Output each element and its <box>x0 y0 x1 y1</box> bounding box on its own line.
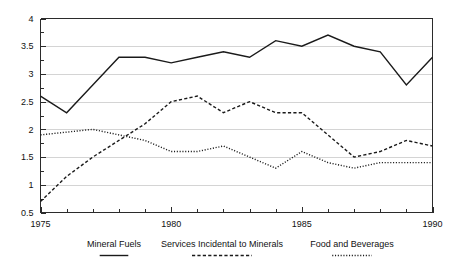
y-tick-labels-group: 0.511.522.533.54 <box>21 14 34 218</box>
x-tick-label: 1985 <box>292 219 312 229</box>
data-series-group <box>41 35 433 201</box>
x-tick-label: 1975 <box>30 219 50 229</box>
y-tick-label: 3 <box>28 69 33 79</box>
y-tick-label: 0.5 <box>21 208 34 218</box>
axis-lines-group <box>41 19 433 213</box>
gridlines-group <box>41 47 433 186</box>
y-tick-label: 2.5 <box>21 97 34 107</box>
y-tick-label: 1.5 <box>21 152 34 162</box>
x-tick-marks-group <box>42 207 434 213</box>
legend: Mineral FuelsServices Incidental to Mine… <box>87 239 394 256</box>
legend-label: Mineral Fuels <box>87 239 142 249</box>
x-tick-label: 1990 <box>422 219 442 229</box>
y-tick-label: 3.5 <box>21 41 34 51</box>
x-tick-label: 1980 <box>161 219 181 229</box>
x-tick-labels-group: 1975198019851990 <box>30 219 442 229</box>
line-chart: 0.511.522.533.54 1975198019851990 Minera… <box>0 0 454 267</box>
y-tick-label: 4 <box>28 14 33 24</box>
chart-canvas: 0.511.522.533.54 1975198019851990 Minera… <box>0 0 454 267</box>
y-tick-marks-group <box>41 20 46 214</box>
y-tick-label: 2 <box>28 125 33 135</box>
series-line-dotted <box>41 129 433 168</box>
legend-label: Food and Beverages <box>310 239 394 249</box>
y-tick-label: 1 <box>28 180 33 190</box>
legend-label: Services Incidental to Minerals <box>161 239 284 249</box>
